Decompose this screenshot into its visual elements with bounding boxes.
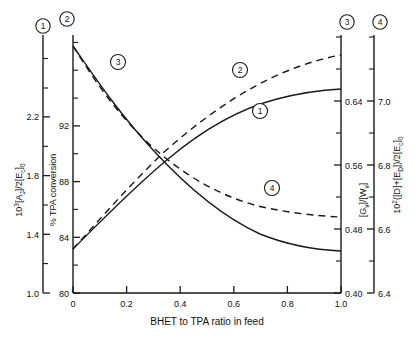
x-tick-0: 0: [70, 299, 75, 309]
x-tick-2: 0.4: [174, 299, 187, 309]
axis-3-tick-3: 0.64: [345, 97, 363, 107]
x-axis: 0 0.2 0.4 0.6 0.8 1.0 BHET to TPA ratio …: [70, 286, 347, 327]
axis-2: 80 84 88 92 % TPA conversion 2: [48, 12, 80, 299]
axis-2-title: % TPA conversion: [48, 154, 58, 227]
series-1-curve: [73, 89, 341, 249]
axis-4: 6.4 6.6 6.8 7.0 102([D]+[ED])/2[Ec]0 4: [367, 15, 404, 299]
x-tick-3: 0.6: [228, 299, 241, 309]
figure-container: 1.0 1.4 1.8 2.2 103[AJ]/2[Ec]0 1 80 84: [0, 0, 415, 348]
axis-3: 0.40 0.48 0.56 0.64 [Gv]/[Wv] 3: [334, 15, 370, 299]
axis-3-title: [Gv]/[Wv]: [358, 183, 370, 218]
series-3-curve: [73, 46, 341, 251]
axis-4-tick-3: 7.0: [378, 97, 391, 107]
axis-3-marker: 3: [340, 15, 354, 29]
axis-1-tick-3: 2.2: [26, 112, 39, 122]
axis-2-tick-3: 92: [59, 121, 69, 131]
axis-4-marker-label: 4: [378, 17, 383, 27]
series-2-curve: [73, 55, 341, 249]
axis-1-marker: 1: [36, 19, 50, 33]
annotation-1: 1: [253, 104, 268, 119]
chart-svg: 1.0 1.4 1.8 2.2 103[AJ]/2[Ec]0 1 80 84: [0, 0, 415, 348]
x-tick-5: 1.0: [335, 299, 348, 309]
annotation-3: 3: [111, 55, 126, 70]
axis-2-tick-0: 80: [59, 289, 69, 299]
axis-1-title: 103[AJ]/2[Ec]0: [13, 163, 26, 217]
axis-3-tick-1: 0.48: [345, 225, 363, 235]
annotation-3-label: 3: [116, 57, 121, 67]
axis-3-marker-label: 3: [345, 17, 350, 27]
series-4-curve: [73, 46, 341, 217]
axis-4-tick-0: 6.4: [378, 289, 391, 299]
axis-2-tick-2: 88: [59, 177, 69, 187]
x-tick-1: 0.2: [120, 299, 133, 309]
axis-1-tick-2: 1.8: [26, 171, 39, 181]
axis-1-tick-1: 1.4: [26, 230, 39, 240]
svg-text:[Gv]/[Wv]: [Gv]/[Wv]: [358, 183, 370, 218]
axis-4-tick-2: 6.8: [378, 161, 391, 171]
axis-2-tick-1: 84: [59, 233, 69, 243]
axis-1-marker-label: 1: [41, 21, 46, 31]
x-axis-title: BHET to TPA ratio in feed: [150, 316, 263, 327]
axis-3-tick-0: 0.40: [345, 289, 363, 299]
x-tick-4: 0.8: [281, 299, 294, 309]
axis-1-tick-0: 1.0: [26, 289, 39, 299]
annotation-2: 2: [233, 63, 248, 78]
annotation-4-label: 4: [270, 183, 275, 193]
axis-2-marker-label: 2: [65, 14, 70, 24]
axis-1: 1.0 1.4 1.8 2.2 103[AJ]/2[Ec]0 1: [13, 19, 51, 299]
annotation-1-label: 1: [258, 106, 263, 116]
svg-text:102([D]+[ED])/2[Ec]0: 102([D]+[ED])/2[Ec]0: [391, 136, 404, 214]
annotation-4: 4: [265, 181, 280, 196]
axis-3-tick-2: 0.56: [345, 161, 363, 171]
axis-4-marker: 4: [373, 15, 387, 29]
annotation-2-label: 2: [238, 65, 243, 75]
axis-2-marker: 2: [60, 12, 74, 26]
plot-frame: [73, 35, 341, 293]
svg-text:103[AJ]/2[Ec]0: 103[AJ]/2[Ec]0: [13, 163, 26, 217]
axis-4-title: 102([D]+[ED])/2[Ec]0: [391, 136, 404, 214]
axis-4-tick-1: 6.6: [378, 225, 391, 235]
